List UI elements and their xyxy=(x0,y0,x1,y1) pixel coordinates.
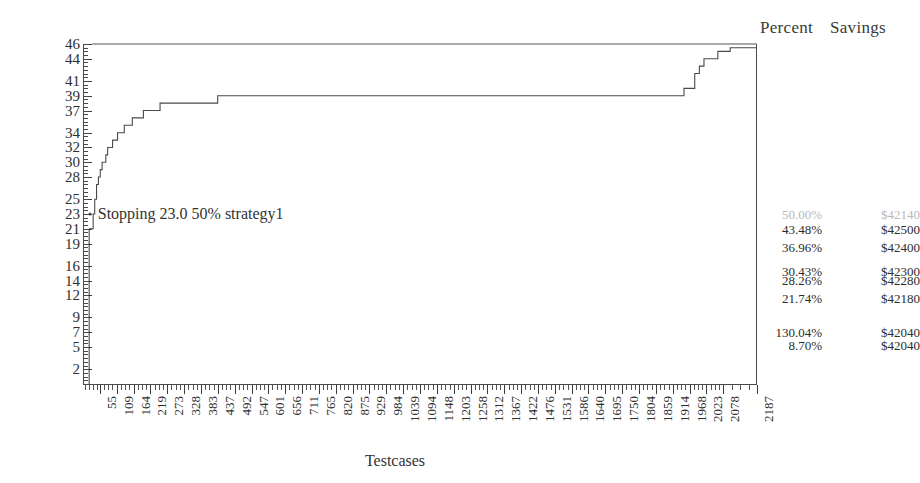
x-tick-minor xyxy=(749,385,750,390)
x-tick-label: 984 xyxy=(391,396,404,416)
y-tick-minor xyxy=(83,48,88,49)
y-tick-minor xyxy=(83,114,88,115)
x-tick-minor xyxy=(125,385,126,390)
y-tick-minor xyxy=(83,140,88,141)
y-tick-minor xyxy=(83,292,88,293)
x-tick-major xyxy=(150,385,151,394)
x-tick-minor xyxy=(146,385,147,390)
y-tick-label: 2 xyxy=(73,362,81,377)
y-tick-minor xyxy=(83,44,88,45)
y-tick-minor xyxy=(83,340,88,341)
y-tick-label: 37 xyxy=(65,103,80,118)
y-tick-minor xyxy=(83,207,88,208)
x-tick-minor xyxy=(542,385,543,390)
x-tick-minor xyxy=(294,385,295,390)
savings-table-row: 21.74%$42180 xyxy=(760,292,920,305)
y-tick-minor xyxy=(83,199,88,200)
y-tick-minor xyxy=(83,232,88,233)
x-tick-label: 1586 xyxy=(577,396,590,422)
y-tick-minor xyxy=(83,284,88,285)
x-tick-label: 1859 xyxy=(661,396,674,422)
y-axis-labels: 464441393734323028252321191614129752 xyxy=(0,0,80,340)
x-tick-minor xyxy=(635,385,636,390)
x-tick-minor xyxy=(412,385,413,390)
x-tick-minor xyxy=(226,385,227,390)
x-tick-major xyxy=(538,385,539,394)
x-tick-minor xyxy=(390,385,391,390)
y-tick-minor xyxy=(83,384,88,385)
y-tick-minor xyxy=(83,303,88,304)
x-axis-title-text: Testcases xyxy=(365,452,425,469)
x-tick-minor xyxy=(374,385,375,390)
y-tick-minor xyxy=(83,192,88,193)
y-tick-minor xyxy=(83,354,88,355)
y-tick-minor xyxy=(83,74,88,75)
y-tick-minor xyxy=(83,99,88,100)
y-tick-label: 14 xyxy=(65,273,80,288)
x-tick-minor xyxy=(159,385,160,390)
x-tick-major xyxy=(386,385,387,394)
y-tick-minor xyxy=(83,317,88,318)
x-tick-minor xyxy=(382,385,383,390)
x-tick-minor xyxy=(197,385,198,390)
x-tick-minor xyxy=(399,385,400,390)
x-tick-label: 1640 xyxy=(593,396,606,422)
x-tick-minor xyxy=(340,385,341,390)
x-tick-major xyxy=(504,385,505,394)
x-tick-minor xyxy=(509,385,510,390)
x-tick-minor xyxy=(298,385,299,390)
y-tick-minor xyxy=(83,144,88,145)
x-tick-minor xyxy=(104,385,105,390)
y-tick-minor xyxy=(83,262,88,263)
y-tick-minor xyxy=(83,184,88,185)
x-tick-major xyxy=(134,385,135,394)
x-tick-major xyxy=(437,385,438,394)
y-tick-minor xyxy=(83,221,88,222)
x-tick-major xyxy=(420,385,421,394)
x-tick-minor xyxy=(138,385,139,390)
x-tick-minor xyxy=(576,385,577,390)
x-tick-major xyxy=(100,385,101,394)
y-tick-minor xyxy=(83,96,88,97)
y-tick-minor xyxy=(83,92,88,93)
x-tick-minor xyxy=(685,385,686,390)
x-tick-minor xyxy=(331,385,332,390)
percent-value: 43.48% xyxy=(760,222,822,235)
x-tick-major xyxy=(690,385,691,394)
x-tick-major xyxy=(302,385,303,394)
savings-table-row: 43.48%$42500 xyxy=(760,222,920,235)
x-tick-minor xyxy=(344,385,345,390)
x-tick-minor xyxy=(715,385,716,390)
savings-table-row: 8.70%$42040 xyxy=(760,338,920,351)
y-tick-minor xyxy=(83,107,88,108)
y-tick-label: 5 xyxy=(73,340,81,355)
x-tick-label: 219 xyxy=(155,396,168,416)
x-tick-minor xyxy=(702,385,703,390)
x-tick-label: 765 xyxy=(324,396,337,416)
x-tick-major xyxy=(471,385,472,394)
y-tick-label: 28 xyxy=(65,170,80,185)
x-tick-label: 1695 xyxy=(610,396,623,422)
y-tick-minor xyxy=(83,255,88,256)
x-tick-label: 1367 xyxy=(509,396,522,422)
y-tick-minor xyxy=(83,247,88,248)
x-tick-minor xyxy=(230,385,231,390)
x-tick-minor xyxy=(424,385,425,390)
y-tick-minor xyxy=(83,240,88,241)
x-tick-minor xyxy=(530,385,531,390)
y-tick-label: 21 xyxy=(65,221,80,236)
x-tick-minor xyxy=(348,385,349,390)
y-tick-minor xyxy=(83,177,88,178)
savings-table: 50.00%$4214043.48%$4250036.96%$4240030.4… xyxy=(760,0,920,483)
x-tick-minor xyxy=(264,385,265,390)
y-tick-minor xyxy=(83,281,88,282)
savings-value: $42400 xyxy=(822,240,920,253)
y-tick-minor xyxy=(83,314,88,315)
y-tick-minor xyxy=(83,310,88,311)
x-tick-label: 1312 xyxy=(492,396,505,422)
x-tick-major xyxy=(201,385,202,394)
y-tick-minor xyxy=(83,136,88,137)
x-tick-minor xyxy=(664,385,665,390)
x-tick-label: 875 xyxy=(358,396,371,416)
x-tick-label: 437 xyxy=(223,396,236,416)
